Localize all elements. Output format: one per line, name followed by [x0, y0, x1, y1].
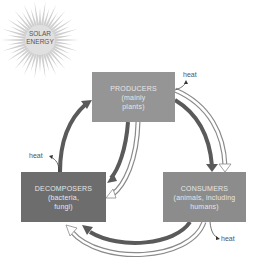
- producers-desc-line2: plants): [122, 102, 144, 111]
- producers-node: PRODUCERS (mainly plants): [92, 72, 175, 122]
- sun-label-line1: SOLAR: [20, 30, 60, 38]
- sun-ray: [48, 50, 65, 70]
- producers-title: PRODUCERS: [110, 84, 157, 93]
- sun-label-line2: ENERGY: [20, 38, 60, 46]
- arrow-consumers-to-decomposers-nutrients: [90, 222, 190, 243]
- arrowhead-producers-to-consumers-energy: [219, 164, 231, 172]
- decomposers-title: DECOMPOSERS: [35, 184, 92, 193]
- heat-arrow-consumers: [210, 222, 218, 238]
- consumers-node: CONSUMERS (animals, including humans): [163, 172, 246, 222]
- sun-ray: [14, 11, 31, 31]
- arrowhead-producers-to-consumers-nutrients: [206, 164, 218, 172]
- consumers-desc-line1: (animals, including: [174, 193, 236, 202]
- decomposers-desc-line1: (bacteria,: [48, 193, 79, 202]
- consumers-desc-line2: humans): [190, 202, 219, 211]
- sun-ray: [48, 11, 65, 31]
- heat-arrow-decomposers: [51, 157, 59, 172]
- decomposers-desc-line2: fungi): [54, 202, 73, 211]
- heat-label-producers: heat: [183, 71, 197, 78]
- sun-ray: [39, 54, 42, 73]
- consumers-title: CONSUMERS: [181, 184, 228, 193]
- sun-label: SOLAR ENERGY: [20, 30, 60, 46]
- arrow-producers-to-decomposers-nutrients: [111, 122, 128, 178]
- heat-label-consumers: heat: [221, 235, 235, 242]
- arrow-decomposers-to-producers-nutrients: [60, 104, 86, 172]
- sun-ray: [14, 50, 31, 70]
- sun-ray: [39, 7, 42, 26]
- decomposers-node: DECOMPOSERS (bacteria, fungi): [21, 172, 106, 222]
- heat-label-decomposers: heat: [29, 152, 43, 159]
- producers-desc-line1: (mainly: [122, 93, 146, 102]
